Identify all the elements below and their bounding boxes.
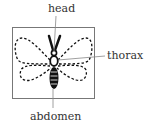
abdomen: [50, 67, 59, 89]
thorax: [50, 56, 58, 66]
head: [51, 50, 56, 55]
label-head: head: [48, 3, 75, 14]
label-thorax: thorax: [107, 50, 143, 61]
label-abdomen: abdomen: [30, 111, 81, 122]
